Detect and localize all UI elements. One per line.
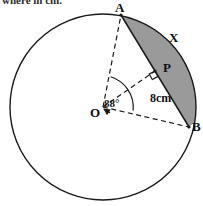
vertex-dot-p [153, 69, 156, 72]
radius-oa-dashed [103, 15, 121, 107]
label-point-a: A [115, 1, 124, 14]
center-pointer-arrow-icon [104, 109, 110, 113]
label-segment-x: X [169, 31, 178, 44]
label-point-b: B [192, 120, 201, 133]
vertex-dot-b [187, 125, 190, 128]
label-center-o: O [90, 106, 100, 119]
label-central-angle: 88° [104, 98, 119, 109]
radius-ob-dashed [103, 107, 189, 127]
label-point-p: P [163, 61, 171, 74]
label-radius-length: 8cm [150, 92, 171, 104]
geometry-figure: where in cm. [0, 0, 203, 206]
